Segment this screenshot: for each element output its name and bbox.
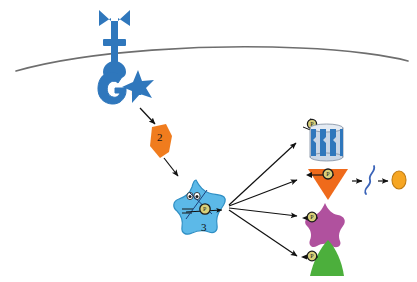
signal-transduction-diagram: E 2 <box>0 0 417 282</box>
kinase-output-arrows <box>229 143 297 256</box>
kinase-phosphate-group: P <box>200 204 210 214</box>
ion-channel: P <box>303 118 343 161</box>
second-messenger: 2 <box>150 124 172 158</box>
arrow-kinase-to-ion-channel <box>229 143 296 205</box>
target-enzyme: P <box>306 169 348 200</box>
plasma-membrane <box>16 47 408 71</box>
effector-enzyme-letter: E <box>131 81 142 98</box>
arrow-kinase-to-target-enzyme <box>229 180 297 206</box>
target-star-phosphate: P <box>307 212 317 222</box>
arrow-kinase-to-target-star <box>229 208 297 216</box>
target-enzyme-phosphate: P <box>323 169 333 179</box>
diagram-canvas: E 2 <box>0 0 417 282</box>
substrate-molecule <box>365 166 374 194</box>
protein-kinase: P 3 <box>174 180 225 234</box>
arrow-receptor-to-second-messenger <box>140 108 155 124</box>
second-messenger-label: 2 <box>157 131 163 143</box>
g-protein <box>98 72 126 104</box>
membrane-effector-enzyme: E <box>122 70 154 103</box>
target-protein-star: P <box>302 203 345 247</box>
product-molecule <box>392 171 406 189</box>
membrane-receptor <box>99 10 130 79</box>
target-cone-phosphate: P <box>307 251 317 261</box>
arrow-kinase-to-target-cone <box>229 210 297 256</box>
arrow-second-messenger-to-kinase <box>164 158 178 176</box>
protein-kinase-label: 3 <box>201 221 207 233</box>
